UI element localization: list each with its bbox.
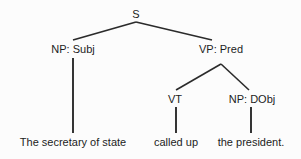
leaf-label-verb: called up (154, 136, 198, 148)
node-label-s: S (132, 8, 139, 20)
syntax-tree-canvas: S NP: Subj VP: Pred VT NP: DObj The secr… (0, 0, 301, 159)
node-label-np-dobj: NP: DObj (229, 93, 275, 105)
node-label-vt: VT (168, 93, 182, 105)
edge-vp-to-np-dobj (221, 64, 249, 90)
edge-s-to-vp-pred (136, 22, 212, 40)
node-label-np-subj: NP: Subj (51, 43, 94, 55)
leaf-label-subject: The secretary of state (20, 136, 126, 148)
edge-s-to-np-subj (73, 22, 136, 40)
leaf-label-object: the president. (218, 136, 285, 148)
syntax-tree-diagram: S NP: Subj VP: Pred VT NP: DObj The secr… (0, 0, 301, 159)
edge-vp-to-vt (176, 64, 221, 90)
node-label-vp-pred: VP: Pred (199, 43, 243, 55)
